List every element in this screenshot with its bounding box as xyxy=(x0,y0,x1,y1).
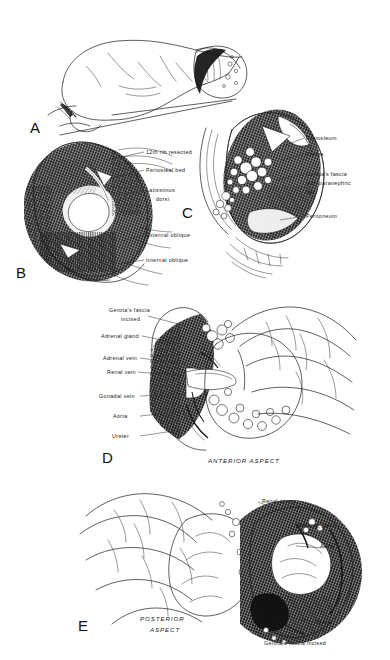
label-gerotas-fascia-d: Gerota's fascia xyxy=(109,307,150,313)
panel-letter-b: B xyxy=(16,264,27,281)
label-renal-artery: Renal artery xyxy=(262,498,296,504)
panel-letter-c: C xyxy=(182,204,193,221)
label-dorsi: dorsi xyxy=(156,196,169,202)
label-external-oblique: External oblique xyxy=(146,232,190,238)
panel-d-illustration xyxy=(149,306,356,450)
label-incised-d: incised xyxy=(121,316,140,322)
panel-letter-e: E xyxy=(78,617,89,634)
label-with-paranephric: with paranephric xyxy=(305,180,351,186)
figure-canvas: A B C D E 12th rib resected Periosteal b… xyxy=(0,0,390,660)
caption-anterior-aspect: ANTERIOR ASPECT xyxy=(207,457,280,464)
label-12th-rib-resected: 12th rib resected xyxy=(146,149,192,155)
panel-b-illustration xyxy=(24,140,172,290)
label-aorta-e: Aorta xyxy=(320,543,335,549)
label-gerotas-fascia-incised-e: Gerota's fascia incised xyxy=(264,640,326,646)
label-ureter-d: Ureter xyxy=(112,433,129,439)
label-periosteum: Periosteum xyxy=(306,135,337,141)
label-adrenal-gland-e: Adrenal gland xyxy=(298,522,336,528)
label-fat: fat xyxy=(306,189,313,195)
caption-posterior-aspect-line1: POSTERIOR xyxy=(140,615,185,622)
label-latissimus: Latissimus xyxy=(146,187,175,193)
label-gonadal-vein: Gonadal vein xyxy=(99,393,135,399)
label-adrenal-gland-d: Adrenal gland xyxy=(101,333,139,339)
panel-a-illustration xyxy=(48,40,247,135)
surgical-atlas-figure: A B C D E 12th rib resected Periosteal b… xyxy=(0,0,390,660)
caption-posterior-aspect-line2: ASPECT xyxy=(149,626,180,633)
label-pleura: Pleura xyxy=(306,151,324,157)
label-peritoneum: Peritoneum xyxy=(306,213,337,219)
label-ureter-e: Ureter xyxy=(316,619,333,625)
label-renal-vein: Renal vein xyxy=(107,369,136,375)
label-aorta-d: Aorta xyxy=(113,413,128,419)
label-gerotas-fascia: Gerota's fascia xyxy=(306,171,347,177)
panel-letter-a: A xyxy=(30,119,41,136)
panel-letter-d: D xyxy=(102,449,113,466)
label-adrenal-vein: Adrenal vein xyxy=(103,355,137,361)
label-internal-oblique: Internal oblique xyxy=(146,257,188,263)
label-periosteal-bed: Periosteal bed xyxy=(146,167,185,173)
